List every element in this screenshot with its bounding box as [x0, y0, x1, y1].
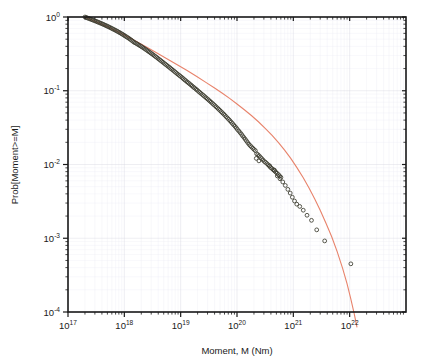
model-fit-curve	[85, 17, 357, 327]
data-point-marker	[305, 213, 309, 217]
data-point-marker	[257, 159, 261, 163]
y-tick-label: 10-1	[44, 84, 61, 96]
x-tick-label: 1017	[59, 319, 77, 331]
axis-tick-labels: 10171018101910201021102210010-110-210-31…	[44, 11, 359, 332]
data-point-marker	[288, 191, 292, 195]
x-tick-label: 1018	[115, 319, 133, 331]
x-tick-label: 1021	[284, 319, 302, 331]
model-fit-line	[85, 17, 357, 327]
figure-container: 10171018101910201021102210010-110-210-31…	[0, 0, 422, 362]
y-tick-label: 10-4	[44, 306, 61, 318]
y-tick-label: 10-2	[44, 158, 61, 170]
x-axis-title: Moment, M (Nm)	[201, 345, 272, 356]
data-point-marker	[315, 228, 319, 232]
y-tick-label: 100	[46, 11, 61, 23]
x-tick-label: 1022	[341, 319, 359, 331]
data-point-marker	[290, 195, 294, 199]
y-axis-title: Prob[Moment>=M]	[9, 126, 20, 205]
y-tick-label: 10-3	[44, 232, 61, 244]
data-point-marker	[301, 208, 305, 212]
data-point-marker	[281, 180, 285, 184]
x-tick-label: 1019	[172, 319, 190, 331]
log-log-complementary-cumulative-distribution-chart: 10171018101910201021102210010-110-210-31…	[0, 0, 422, 362]
x-tick-label: 1020	[228, 319, 246, 331]
data-point-marker	[323, 239, 327, 243]
data-point-marker	[298, 205, 302, 209]
data-point-markers	[83, 15, 353, 266]
